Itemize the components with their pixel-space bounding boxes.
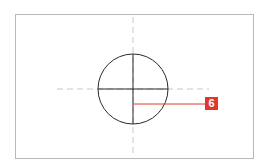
- callout-label-badge: 6: [205, 97, 218, 110]
- drawing-canvas: [0, 0, 269, 168]
- drawing-frame: [16, 15, 254, 159]
